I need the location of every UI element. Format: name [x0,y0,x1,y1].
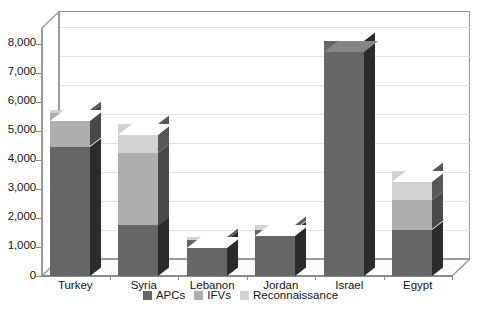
bar-segment-side-face [364,32,375,276]
bar-segment-side-face [158,144,169,225]
bar-segment-side-face [90,138,101,276]
legend-item[interactable]: APCs [143,290,185,302]
bar-segment-front-face [255,230,295,276]
legend-swatch-icon [194,291,203,300]
bar-segment[interactable] [255,230,295,276]
legend-item[interactable]: Reconnaissance [240,290,338,302]
bar-segment-side-face [432,221,443,276]
bar-segment[interactable] [118,124,158,153]
bar-segment[interactable] [187,237,227,240]
legend-label: IFVs [207,290,231,302]
stacked-bar-chart: 01,0002,0003,0004,0005,0006,0007,0008,00… [0,0,481,311]
bar-segment[interactable] [50,110,90,113]
legend-swatch-icon [240,291,249,300]
bar-segment[interactable] [392,200,432,229]
bar-segment-front-face [118,225,158,276]
legend-swatch-icon [143,291,152,300]
bar-segment-front-face [50,147,90,276]
bar-series-container [0,0,481,311]
bar-segment[interactable] [118,153,158,226]
bar-segment[interactable] [392,171,432,200]
bar-segment[interactable] [118,225,158,276]
bar-segment[interactable] [392,230,432,276]
bar-segment-front-face [118,153,158,226]
bar-segment-front-face [324,41,364,276]
bar-segment[interactable] [255,225,295,229]
legend-label: APCs [156,290,185,302]
bar-segment[interactable] [50,147,90,276]
bar-segment[interactable] [324,41,364,276]
bar-segment-front-face [392,200,432,229]
bar-segment-side-face [158,217,169,276]
legend-item[interactable]: IFVs [194,290,231,302]
chart-legend: APCsIFVsReconnaissance [0,290,481,302]
legend-label: Reconnaissance [253,290,338,302]
bar-segment-front-face [392,230,432,276]
